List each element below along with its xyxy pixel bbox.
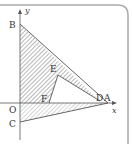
x-axis-label: x	[112, 106, 117, 115]
x-axis-arrow-icon	[112, 101, 117, 105]
y-axis-label: y	[24, 6, 30, 15]
point-A-label: A	[103, 93, 111, 103]
point-D-label: D	[96, 93, 103, 103]
point-B-label: B	[9, 20, 16, 30]
y-axis-arrow-icon	[18, 9, 22, 14]
origin-label: O	[9, 105, 16, 115]
point-C-label: C	[9, 119, 16, 129]
geometry-figure: y x O B E F D A C	[0, 0, 132, 144]
segment-ED	[58, 75, 100, 101]
point-E-label: E	[50, 64, 57, 74]
point-F-label: F	[41, 94, 47, 104]
shaded-region-upper-main	[20, 24, 100, 103]
